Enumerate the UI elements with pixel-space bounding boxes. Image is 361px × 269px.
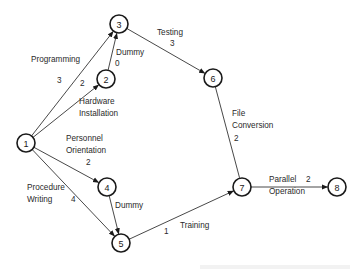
activity-label-3-6: Testing <box>157 28 183 37</box>
activity-label-1-4: Personnel <box>66 134 103 143</box>
duration-label-1-2: 2 <box>80 79 85 88</box>
network-diagram: Programming3HardwareInstallation2Dummy0T… <box>0 0 361 269</box>
node-label: 7 <box>239 183 244 193</box>
duration-label-1-5: 4 <box>71 195 76 204</box>
duration-label-5-7: 1 <box>164 227 169 236</box>
node-3: 3 <box>110 15 128 33</box>
node-label: 6 <box>210 74 215 84</box>
node-6: 6 <box>204 69 222 87</box>
edge-5-7 <box>129 191 233 239</box>
node-8: 8 <box>328 178 346 196</box>
node-label: 2 <box>103 75 108 85</box>
duration-label-1-3: 3 <box>57 76 62 85</box>
duration-label-6-7: 2 <box>234 134 239 143</box>
edge-labels: Programming3HardwareInstallation2Dummy0T… <box>27 28 311 236</box>
node-4: 4 <box>98 178 116 196</box>
activity-label-1-4: Orientation <box>66 146 106 155</box>
node-5: 5 <box>112 234 130 252</box>
duration-label-3-6: 3 <box>170 39 175 48</box>
node-label: 8 <box>334 183 339 193</box>
node-label: 1 <box>23 139 28 149</box>
activity-label-1-5: Procedure <box>27 183 65 192</box>
activity-label-6-7: Conversion <box>232 121 274 130</box>
node-2: 2 <box>97 70 115 88</box>
node-1: 1 <box>17 134 35 152</box>
duration-label-7-8: 2 <box>306 175 311 184</box>
duration-label-2-3: 0 <box>115 59 120 68</box>
activity-label-4-5: Dummy <box>115 201 144 210</box>
node-label: 4 <box>104 183 109 193</box>
activity-label-1-2: Installation <box>79 109 119 118</box>
edge-6-7 <box>215 87 239 178</box>
activity-label-1-5: Writing <box>27 195 53 204</box>
duration-label-1-4: 2 <box>86 158 91 167</box>
activity-label-1-2: Hardware <box>79 97 115 106</box>
activity-label-7-8: Operation <box>269 187 305 196</box>
activity-label-2-3: Dummy <box>116 48 145 57</box>
node-label: 5 <box>118 239 123 249</box>
node-7: 7 <box>233 178 251 196</box>
activity-label-6-7: File <box>232 109 246 118</box>
activity-label-5-7: Training <box>180 221 210 230</box>
node-label: 3 <box>116 20 121 30</box>
activity-label-1-3: Programming <box>31 55 81 64</box>
activity-label-7-8: Parallel <box>269 175 296 184</box>
cut-off-caption <box>200 265 350 269</box>
